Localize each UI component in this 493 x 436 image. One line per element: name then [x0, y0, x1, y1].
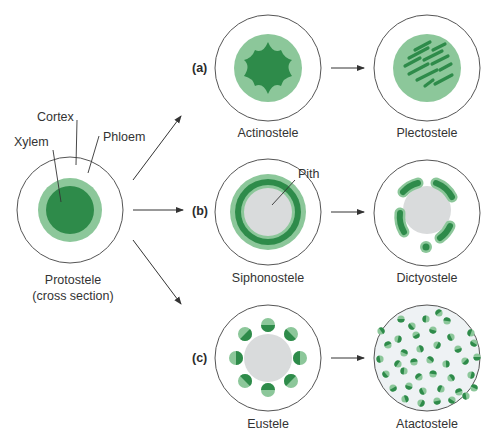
arrow-to-c: [133, 240, 181, 304]
row-b-tag: (b): [192, 204, 208, 218]
row-c-tag: (c): [192, 351, 207, 365]
protostele-title: Protostele: [32, 272, 113, 288]
atactostele-figure: [374, 305, 481, 411]
arrow-to-a: [133, 116, 181, 180]
eustele-label: Eustele: [247, 416, 289, 432]
actinostele-label: Actinostele: [237, 125, 298, 141]
actinostele-figure: [215, 15, 321, 121]
row-a-tag: (a): [192, 61, 207, 75]
eustele-figure: [215, 305, 321, 411]
pith: [244, 188, 292, 236]
atactostele-label: Atactostele: [396, 416, 458, 432]
dictyostele-label: Dictyostele: [396, 270, 457, 286]
stele-evolution-diagram: Cortex Xylem Phloem Protostele (cross se…: [0, 0, 493, 436]
pith-label: Pith: [298, 167, 320, 181]
dictyostele-figure: [374, 160, 480, 266]
cortex-label: Cortex: [37, 110, 74, 124]
phloem-label: Phloem: [103, 130, 145, 144]
siphonostele-label: Siphonostele: [232, 270, 304, 286]
plectostele-figure: [374, 15, 480, 121]
plectostele-label: Plectostele: [396, 125, 457, 141]
xylem-label: Xylem: [14, 135, 49, 149]
protostele-subtitle: (cross section): [32, 288, 113, 304]
xylem-core: [46, 186, 94, 234]
diagram-canvas: [0, 0, 493, 436]
protostele-caption: Protostele (cross section): [32, 272, 113, 304]
